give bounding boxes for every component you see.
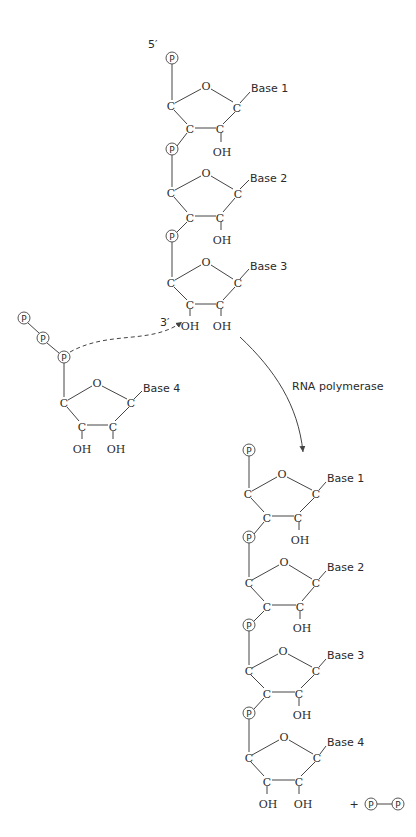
svg-text:P: P <box>169 54 175 64</box>
base-1-label: Base 1 <box>251 82 288 95</box>
svg-text:C: C <box>186 212 194 225</box>
phosphate-icon: P <box>166 143 178 155</box>
svg-text:C: C <box>216 123 224 136</box>
svg-text:O: O <box>278 645 287 658</box>
product-base-4-label: Base 4 <box>327 736 364 749</box>
svg-text:OH: OH <box>293 622 312 635</box>
svg-text:C: C <box>244 488 252 501</box>
svg-text:O: O <box>279 731 288 744</box>
phosphate-icon: P <box>365 798 377 810</box>
three-prime-oh: OH <box>181 320 200 333</box>
svg-text:O: O <box>201 80 210 93</box>
product-ribose-ring-4: O C C C C OH OH Base 4 <box>245 731 364 811</box>
svg-text:C: C <box>312 488 320 501</box>
phosphate-icon: P <box>392 798 404 810</box>
svg-text:OH: OH <box>73 443 92 456</box>
incoming-nucleotide: P P P O C C C C OH OH Ba <box>18 312 180 456</box>
svg-text:C: C <box>234 277 242 290</box>
svg-text:P: P <box>61 353 67 363</box>
svg-text:C: C <box>312 577 320 590</box>
svg-text:C: C <box>167 277 175 290</box>
phosphate-icon: P <box>243 619 255 631</box>
svg-text:C: C <box>295 688 303 701</box>
svg-text:C: C <box>234 188 242 201</box>
svg-text:OH: OH <box>291 534 310 547</box>
phosphate-icon: P <box>243 444 255 456</box>
phosphate-icon: P <box>37 332 49 344</box>
svg-text:P: P <box>246 446 252 456</box>
svg-text:O: O <box>201 256 210 269</box>
svg-text:OH: OH <box>107 443 126 456</box>
svg-text:C: C <box>186 123 194 136</box>
ribose-ring-1: O C C C C OH Base 1 <box>167 80 288 159</box>
svg-text:C: C <box>312 665 320 678</box>
svg-text:P: P <box>246 621 252 631</box>
svg-text:C: C <box>263 601 271 614</box>
phosphate-icon: P <box>166 52 178 64</box>
rna-polymerization-diagram: 5′ P O C C C C OH Base 1 P <box>0 0 416 837</box>
svg-text:C: C <box>216 212 224 225</box>
svg-text:OH: OH <box>213 146 232 159</box>
three-prime-label: 3′ <box>160 316 170 329</box>
ribose-ring-4: O C C C C OH OH Base 4 <box>60 377 180 456</box>
svg-text:C: C <box>313 752 321 765</box>
svg-text:C: C <box>127 397 135 410</box>
svg-text:O: O <box>201 167 210 180</box>
svg-text:OH: OH <box>293 709 312 722</box>
svg-text:P: P <box>21 314 27 324</box>
svg-text:C: C <box>78 421 86 434</box>
product-chain: P O C C C C OH Base 1 P <box>243 444 404 811</box>
product-base-1-label: Base 1 <box>327 472 364 485</box>
svg-text:C: C <box>295 776 303 789</box>
svg-text:P: P <box>368 800 374 810</box>
base-3-label: Base 3 <box>250 260 287 273</box>
enzyme-label: RNA polymerase <box>292 380 384 393</box>
svg-text:P: P <box>395 800 401 810</box>
reactant-chain: 5′ P O C C C C OH Base 1 P <box>148 38 288 333</box>
svg-text:C: C <box>186 299 194 312</box>
phosphate-icon: P <box>243 531 255 543</box>
svg-text:C: C <box>109 421 117 434</box>
ribose-ring-3: O C C C C OH OH Base 3 <box>167 256 287 333</box>
svg-text:C: C <box>263 512 271 525</box>
svg-text:OH: OH <box>213 320 232 333</box>
reaction-arrow <box>240 337 303 452</box>
svg-text:C: C <box>167 187 175 200</box>
svg-text:P: P <box>246 709 252 719</box>
product-base-2-label: Base 2 <box>327 561 364 574</box>
plus-sign: + <box>349 798 358 811</box>
phosphate-icon: P <box>243 707 255 719</box>
svg-text:C: C <box>263 688 271 701</box>
svg-text:P: P <box>246 533 252 543</box>
svg-text:O: O <box>279 556 288 569</box>
product-base-3-label: Base 3 <box>327 649 364 662</box>
product-ribose-ring-3: O C C C C OH Base 3 <box>245 645 364 722</box>
svg-text:C: C <box>245 665 253 678</box>
svg-text:P: P <box>40 334 46 344</box>
product-ribose-ring-1: O C C C C OH Base 1 <box>244 468 364 547</box>
svg-text:C: C <box>233 102 241 115</box>
svg-text:C: C <box>245 577 253 590</box>
svg-text:C: C <box>60 397 68 410</box>
svg-text:O: O <box>277 468 286 481</box>
svg-text:P: P <box>169 232 175 242</box>
svg-text:OH: OH <box>213 234 232 247</box>
product-ribose-ring-2: O C C C C OH Base 2 <box>245 556 364 635</box>
svg-text:C: C <box>245 752 253 765</box>
pyrophosphate-byproduct: + P P <box>349 798 404 811</box>
svg-text:P: P <box>169 145 175 155</box>
phosphate-icon: P <box>166 230 178 242</box>
svg-text:O: O <box>92 377 101 390</box>
svg-text:C: C <box>296 601 304 614</box>
svg-text:OH: OH <box>294 798 313 811</box>
phosphate-icon: P <box>58 351 70 363</box>
svg-text:C: C <box>263 776 271 789</box>
svg-text:OH: OH <box>259 798 278 811</box>
five-prime-label: 5′ <box>148 38 158 51</box>
base-2-label: Base 2 <box>250 172 287 185</box>
svg-text:C: C <box>167 100 175 113</box>
base-4-label: Base 4 <box>143 382 180 395</box>
svg-text:C: C <box>294 512 302 525</box>
phosphate-icon: P <box>18 312 30 324</box>
svg-text:C: C <box>216 299 224 312</box>
